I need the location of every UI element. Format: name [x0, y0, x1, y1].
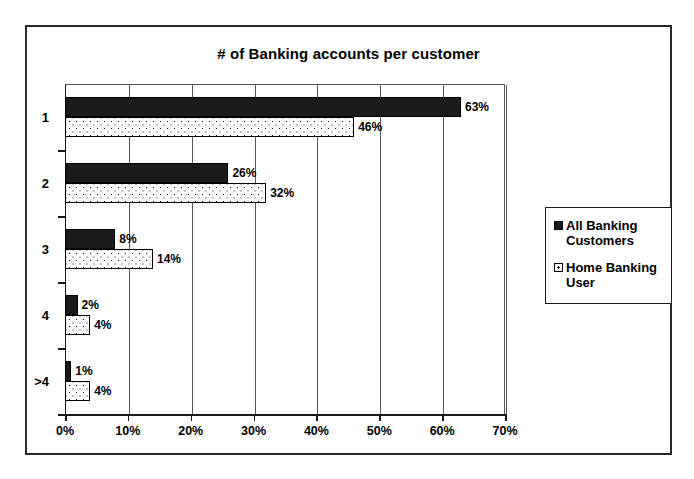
bar-value-label: 1% [75, 364, 92, 378]
x-axis-line [65, 414, 507, 416]
bar-all-banking-customers-1 [65, 97, 461, 117]
y-tick-mark [58, 216, 65, 218]
y-category-label: 1 [15, 110, 49, 125]
bar-home-banking-user-2 [65, 183, 266, 203]
x-tick-label: 20% [178, 424, 203, 438]
y-category-label: >4 [15, 374, 49, 389]
bar-all-banking-customers-3 [65, 229, 115, 249]
gridline [506, 85, 507, 414]
x-tick-mark [316, 414, 318, 421]
chart-legend: All Banking CustomersHome Banking User [545, 207, 672, 304]
bar-value-label: 63% [465, 100, 489, 114]
bar-value-label: 2% [82, 298, 99, 312]
bar-home-banking-user-4 [65, 315, 90, 335]
x-tick-mark [65, 414, 67, 421]
bar-value-label: 26% [232, 166, 256, 180]
bar-value-label: 32% [270, 186, 294, 200]
bar-value-label: 46% [358, 120, 382, 134]
bar-value-label: 4% [94, 318, 111, 332]
x-tick-mark [442, 414, 444, 421]
x-tick-label: 0% [56, 424, 74, 438]
x-tick-mark [379, 414, 381, 421]
x-tick-mark [254, 414, 256, 421]
y-tick-mark [58, 348, 65, 350]
bar-value-label: 4% [94, 384, 111, 398]
x-tick-label: 50% [367, 424, 392, 438]
legend-swatch-icon [554, 263, 563, 272]
chart-frame: # of Banking accounts per customer 0%10%… [25, 25, 672, 455]
bar-value-label: 8% [119, 232, 136, 246]
y-category-label: 2 [15, 176, 49, 191]
x-tick-mark [128, 414, 130, 421]
bar-home-banking-user-1 [65, 117, 354, 137]
gridline [380, 85, 381, 414]
bar-all-banking-customers-4 [65, 295, 78, 315]
bar-home-banking-user-3 [65, 249, 153, 269]
x-tick-label: 70% [492, 424, 517, 438]
legend-label: All Banking Customers [566, 218, 670, 248]
legend-swatch-icon [554, 221, 563, 230]
legend-label: Home Banking User [566, 260, 670, 290]
x-tick-mark [505, 414, 507, 421]
y-tick-mark [58, 414, 65, 416]
y-tick-mark [58, 150, 65, 152]
bar-all-banking-customers->4 [65, 361, 71, 381]
legend-entry: All Banking Customers [554, 218, 671, 248]
x-tick-label: 40% [304, 424, 329, 438]
x-tick-label: 10% [115, 424, 140, 438]
x-tick-mark [191, 414, 193, 421]
x-tick-label: 30% [241, 424, 266, 438]
bar-value-label: 14% [157, 252, 181, 266]
y-category-label: 3 [15, 242, 49, 257]
gridline [443, 85, 444, 414]
y-tick-mark [58, 282, 65, 284]
legend-entry: Home Banking User [554, 260, 671, 290]
bar-all-banking-customers-2 [65, 163, 228, 183]
x-tick-label: 60% [430, 424, 455, 438]
chart-title: # of Banking accounts per customer [27, 45, 670, 62]
y-category-label: 4 [15, 308, 49, 323]
bar-home-banking-user->4 [65, 381, 90, 401]
